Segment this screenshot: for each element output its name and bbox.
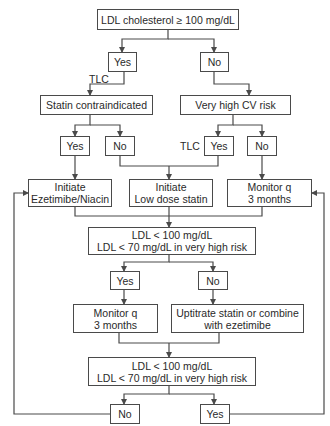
no-node-5: No — [110, 404, 140, 424]
node-text: No — [208, 56, 221, 68]
node-text-line1: Initiate — [55, 181, 86, 193]
tlc-label-right: TLC — [180, 140, 200, 152]
yes-node-4: Yes — [110, 271, 140, 290]
node-text: Very high CV risk — [195, 99, 276, 111]
node-text-line1: Monitor q — [248, 181, 292, 193]
node-text-line2: with ezetimibe — [204, 319, 271, 331]
yes-node-3: Yes — [204, 136, 234, 156]
node-text: No — [255, 140, 268, 152]
uptitrate-statin-node: Uptitrate statin or combine with ezetimi… — [171, 304, 304, 333]
node-text: No — [118, 408, 131, 420]
node-text-line2: LDL < 70 mg/dL in very high risk — [97, 372, 247, 384]
node-text: Yes — [114, 56, 131, 68]
no-node-3: No — [247, 136, 277, 156]
no-node-2: No — [105, 136, 135, 156]
ldl-threshold-node: LDL cholesterol ≥ 100 mg/dL — [97, 9, 239, 30]
initiate-ezetimibe-niacin-node: Initiate Ezetimibe/Niacin — [28, 179, 112, 207]
monitor-3-months-node-1: Monitor q 3 months — [227, 179, 312, 207]
yes-node-5: Yes — [200, 404, 230, 424]
node-text-line2: 3 months — [94, 319, 137, 331]
node-text-line1: Uptitrate statin or combine — [176, 307, 299, 319]
node-text-line1: Monitor q — [94, 307, 138, 319]
node-text-line2: Low dose statin — [135, 193, 208, 205]
no-node-1: No — [200, 52, 229, 72]
statin-contraindicated-node: Statin contraindicated — [40, 95, 153, 115]
node-text-line1: LDL < 100 mg/dL — [132, 360, 212, 372]
node-text: Statin contraindicated — [46, 99, 147, 111]
no-node-4: No — [198, 271, 228, 290]
monitor-3-months-node-2: Monitor q 3 months — [73, 304, 158, 333]
node-text-line2: 3 months — [248, 193, 291, 205]
node-text-line1: LDL < 100 mg/dL — [132, 229, 212, 241]
node-text: Yes — [66, 140, 83, 152]
tlc-label-left: TLC — [89, 73, 109, 85]
flowchart-canvas: LDL cholesterol ≥ 100 mg/dL Yes No TLC S… — [0, 0, 330, 426]
very-high-cv-risk-node: Very high CV risk — [180, 95, 291, 115]
yes-node-1: Yes — [108, 52, 137, 72]
node-text: No — [113, 140, 126, 152]
initiate-low-dose-statin-node: Initiate Low dose statin — [129, 179, 213, 207]
node-text: Yes — [116, 275, 133, 287]
node-text-line2: LDL < 70 mg/dL in very high risk — [97, 241, 247, 253]
node-text: Yes — [206, 408, 223, 420]
node-text-line2: Ezetimibe/Niacin — [31, 193, 109, 205]
ldl-target-check-node-2: LDL < 100 mg/dL LDL < 70 mg/dL in very h… — [88, 357, 256, 386]
node-text: LDL cholesterol ≥ 100 mg/dL — [101, 14, 235, 26]
node-text: Yes — [210, 140, 227, 152]
ldl-target-check-node-1: LDL < 100 mg/dL LDL < 70 mg/dL in very h… — [88, 227, 256, 255]
node-text: No — [206, 275, 219, 287]
node-text-line1: Initiate — [156, 181, 187, 193]
yes-node-2: Yes — [60, 136, 90, 156]
